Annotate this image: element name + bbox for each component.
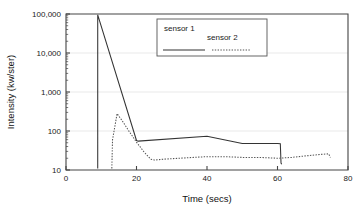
x-tick-label: 20 <box>132 174 141 183</box>
y-tick-label: 1,000 <box>41 88 62 97</box>
y-tick-label: 100,000 <box>32 10 61 19</box>
x-axis-tick-labels: 020406080 <box>64 174 353 183</box>
x-tick-label: 40 <box>203 174 212 183</box>
legend-label-sensor-2: sensor 2 <box>207 33 238 42</box>
y-axis-title: Intensity (kw/ster) <box>5 55 16 129</box>
x-tick-label: 60 <box>273 174 282 183</box>
y-tick-label: 10 <box>52 166 61 175</box>
x-axis-major-ticks <box>66 166 348 170</box>
chart-figure: 101001,00010,000100,000 020406080 Time (… <box>0 0 362 210</box>
legend-label-sensor-1: sensor 1 <box>164 24 195 33</box>
y-tick-label: 100 <box>48 127 62 136</box>
x-tick-label: 0 <box>64 174 69 183</box>
y-axis-tick-labels: 101001,00010,000100,000 <box>32 10 61 175</box>
x-axis-title: Time (secs) <box>182 193 231 204</box>
grid-lines <box>66 53 348 131</box>
x-tick-label: 80 <box>344 174 353 183</box>
intensity-vs-time-line-chart: 101001,00010,000100,000 020406080 Time (… <box>0 0 362 210</box>
y-tick-label: 10,000 <box>37 49 62 58</box>
chart-legend[interactable]: sensor 1 sensor 2 <box>157 19 267 56</box>
